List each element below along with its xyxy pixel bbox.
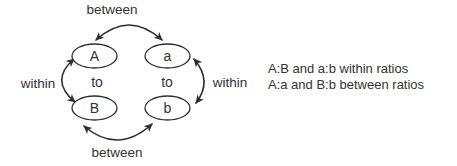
figure-canvas: A a B b to to between between within wit… — [0, 0, 457, 166]
within-label-right: within — [212, 75, 248, 90]
within-arrow-right — [194, 59, 204, 103]
caption-line-2: A:a and B:b between ratios — [268, 77, 424, 93]
node-label-A: A — [90, 48, 100, 64]
within-label-left: within — [20, 76, 56, 91]
between-label-bottom: between — [91, 145, 142, 160]
caption-line-1: A:B and a:b within ratios — [268, 61, 424, 77]
node-label-a: a — [164, 48, 172, 64]
to-label-right: to — [161, 74, 173, 90]
caption: A:B and a:b within ratios A:a and B:b be… — [268, 61, 424, 92]
node-label-B: B — [90, 100, 99, 116]
between-arrow-top — [96, 25, 162, 40]
to-label-left: to — [91, 74, 103, 90]
between-label-top: between — [86, 2, 137, 17]
within-arrow-left — [62, 59, 75, 102]
between-arrow-bottom — [84, 124, 152, 140]
node-label-b: b — [164, 100, 172, 116]
